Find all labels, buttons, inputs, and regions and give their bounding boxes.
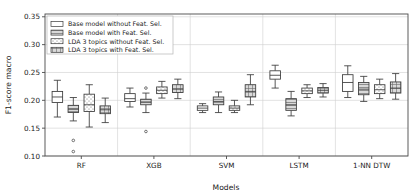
y-tick-label: 0.30: [24, 40, 40, 49]
legend-item-label: Base model without Feat. Sel.: [68, 20, 162, 27]
legend-item[interactable]: LDA 3 topics without Feat. Sel.: [51, 38, 164, 46]
legend-item-label: Base model with Feat. Sel.: [68, 29, 151, 36]
legend-item-label: LDA 3 topics with Feat. Sel.: [68, 46, 154, 54]
x-axis-title: Models: [213, 183, 240, 192]
x-tick-label: SVM: [219, 161, 235, 170]
y-tick-label: 0.25: [24, 68, 40, 77]
x-tick-label: 1-NN DTW: [353, 161, 390, 170]
y-axis-ticks: 0.100.150.200.250.300.35: [24, 12, 45, 160]
x-tick-label: XGB: [146, 161, 161, 170]
y-tick-label: 0.20: [24, 96, 40, 105]
legend[interactable]: Base model without Feat. Sel.Base model …: [47, 16, 173, 54]
y-axis-title: F1-score macro: [4, 55, 13, 114]
legend-swatch-icon: [51, 22, 63, 27]
y-tick-label: 0.10: [24, 152, 40, 161]
y-tick-label: 0.35: [24, 12, 40, 21]
boxplot-canvas: 0.100.150.200.250.300.35 RFXGBSVMLSTM1-N…: [0, 0, 417, 196]
legend-item[interactable]: Base model without Feat. Sel.: [51, 20, 162, 27]
boxplot-figure: 0.100.150.200.250.300.35 RFXGBSVMLSTM1-N…: [0, 0, 417, 196]
y-tick-label: 0.15: [24, 124, 40, 133]
legend-item-label: LDA 3 topics without Feat. Sel.: [68, 38, 164, 46]
legend-swatch-icon: [51, 47, 63, 52]
legend-swatch-icon: [51, 39, 63, 44]
legend-swatch-icon: [51, 30, 63, 35]
x-tick-label: RF: [77, 161, 86, 170]
x-axis-ticks: RFXGBSVMLSTM1-NN DTW: [77, 156, 391, 170]
x-tick-label: LSTM: [290, 161, 309, 170]
